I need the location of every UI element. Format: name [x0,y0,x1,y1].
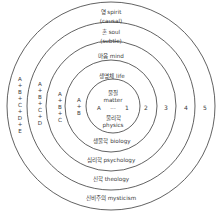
level-number-1: 1 [125,104,129,111]
formula-a-b: A + B [77,97,82,116]
life-label: 생명체 life [99,72,125,80]
svg-text:+: + [58,110,63,116]
biology-label: 생물학 biology [93,137,131,145]
formula-a-b-c: A + B + C [58,91,63,123]
causal-label: (causal) [100,18,122,24]
matter-label: matter [103,97,123,103]
level-number-2: 2 [144,104,148,111]
formula-a-b-c-d: A + B + C + D [38,81,43,126]
center-letter-a: A [97,105,101,111]
spirit-label: 영 spirit [101,8,123,16]
formula-a-b-c-d-e: A + B + C + D + E [18,76,23,134]
theology-label: 신학 theology [93,175,130,183]
mysticism-label: 신비주의 mysticism [86,194,136,202]
svg-text:+: + [18,108,23,114]
svg-text:+: + [77,103,82,109]
svg-text:C: C [58,117,62,123]
level-number-5: 5 [203,104,207,111]
subtle-label: (subtle) [100,38,122,44]
soul-label: 혼 soul [102,28,121,35]
level-number-3: 3 [164,104,168,111]
physics-label: physics [103,122,124,129]
svg-text:+: + [18,95,23,101]
mind-label: 마음 mind [98,52,124,60]
physics-korean-label: 물리학 [106,114,121,122]
svg-text:+: + [18,82,23,88]
svg-text:+: + [38,87,43,93]
svg-text:+: + [18,121,23,127]
matter-korean-label: 물질 [108,89,118,96]
center-dots: ... [110,104,116,110]
psychology-label: 심리학 psychology [87,156,136,164]
svg-text:+: + [58,97,63,103]
level-number-4: 4 [184,104,188,111]
svg-text:E: E [18,128,22,134]
svg-text:+: + [38,113,43,119]
svg-text:+: + [38,100,43,106]
svg-text:B: B [77,110,81,116]
svg-text:D: D [38,120,42,126]
concentric-levels-diagram: 영 spirit (causal) 신비주의 mysticism 혼 soul … [0,0,224,221]
